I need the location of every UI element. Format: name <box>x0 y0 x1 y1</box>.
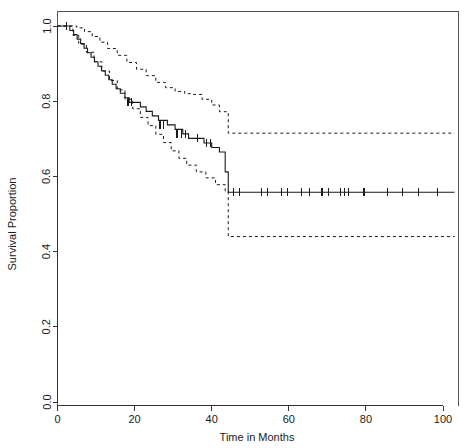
censored-observation-marks <box>66 22 437 196</box>
x-axis-group: 020406080100 Time in Months <box>54 406 452 444</box>
plot-frame <box>58 12 459 406</box>
series-group <box>58 22 455 237</box>
y-axis-group: 0.00.20.40.60.81.0 Survival Proportion <box>6 18 58 409</box>
survival-chart-figure: 0.00.20.40.60.81.0 Survival Proportion 0… <box>0 0 471 448</box>
y-tick-label: 0.8 <box>41 94 53 109</box>
y-axis-ticks <box>53 26 58 402</box>
plot-frame-group <box>58 12 459 406</box>
x-axis-tick-labels: 020406080100 <box>54 413 452 425</box>
y-tick-label: 0.4 <box>41 244 53 259</box>
x-tick-label: 40 <box>206 413 218 425</box>
y-tick-label: 1.0 <box>41 18 53 33</box>
x-tick-label: 20 <box>128 413 140 425</box>
x-tick-label: 80 <box>360 413 372 425</box>
x-tick-label: 0 <box>54 413 60 425</box>
lower-confidence-band <box>58 26 455 237</box>
y-tick-label: 0.2 <box>41 319 53 334</box>
upper-confidence-band <box>58 26 455 133</box>
x-tick-label: 60 <box>283 413 295 425</box>
x-tick-label: 100 <box>434 413 452 425</box>
y-tick-label: 0.6 <box>41 169 53 184</box>
y-axis-tick-labels: 0.00.20.40.60.81.0 <box>41 18 53 409</box>
x-axis-title: Time in Months <box>220 431 295 443</box>
kaplan-meier-plot: 0.00.20.40.60.81.0 Survival Proportion 0… <box>0 0 471 448</box>
x-axis-ticks <box>58 406 444 411</box>
y-tick-label: 0.0 <box>41 394 53 409</box>
y-axis-title: Survival Proportion <box>6 178 18 271</box>
